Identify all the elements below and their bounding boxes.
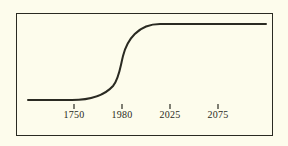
tick-label-1980: 1980 (112, 109, 133, 120)
tick-label-2025: 2025 (160, 109, 181, 120)
chart-plot (0, 0, 288, 146)
tick-label-2075: 2075 (208, 109, 229, 120)
logistic-curve (28, 24, 266, 100)
tick-label-1750: 1750 (64, 109, 85, 120)
